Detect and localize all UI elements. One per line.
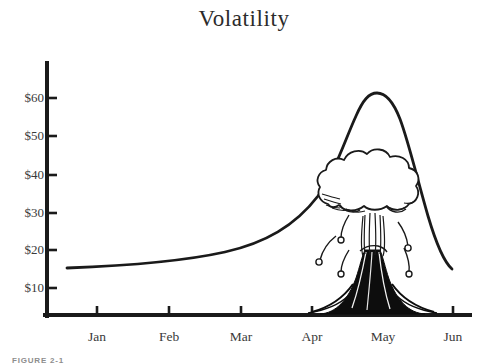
x-tick-label-may: May <box>353 330 413 344</box>
x-tick-label-feb: Feb <box>139 330 199 344</box>
x-tick-label-apr: Apr <box>282 330 342 344</box>
x-tick-label-mar: Mar <box>211 330 271 344</box>
figure-caption: FIGURE 2-1 <box>12 356 64 364</box>
x-axis-labels: Jan Feb Mar Apr May Jun <box>0 0 488 364</box>
x-tick-label-jan: Jan <box>67 330 127 344</box>
volatility-figure: Volatility <box>0 0 488 364</box>
x-tick-label-jun: Jun <box>423 330 483 344</box>
